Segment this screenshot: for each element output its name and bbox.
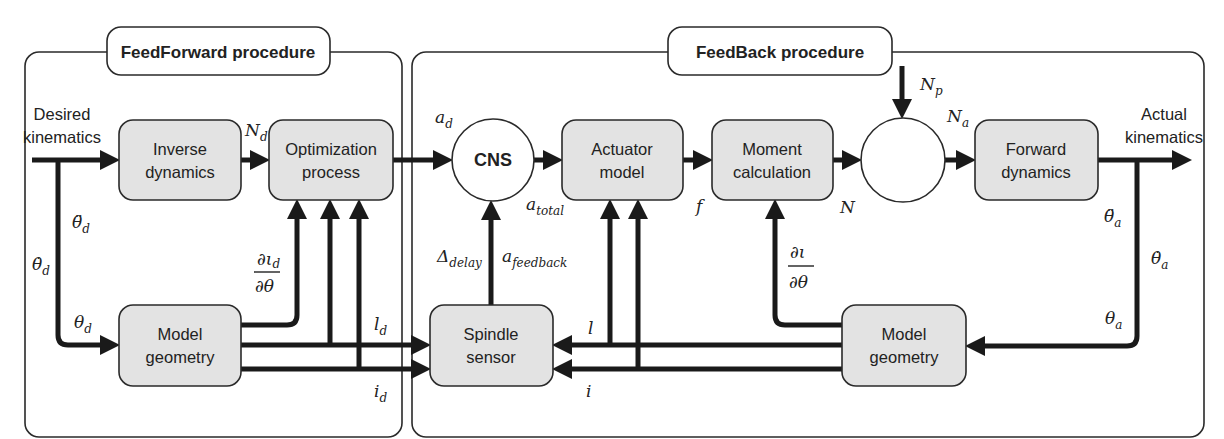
model-geometry-left-label-2: geometry — [146, 348, 216, 366]
feedforward-title: FeedForward procedure — [121, 43, 316, 62]
optimization-label-1: Optimization — [285, 140, 377, 158]
signal-a-total: atotal — [526, 194, 564, 218]
actuator-label-1: Actuator — [591, 140, 653, 158]
model-geometry-left-label-1: Model — [158, 325, 203, 343]
actual-kinematics-label-2: kinematics — [1125, 128, 1203, 146]
desired-kinematics-label-1: Desired — [34, 105, 91, 123]
control-diagram: FeedForward procedure FeedBack procedure — [0, 0, 1224, 439]
actual-kinematics-label-1: Actual — [1141, 105, 1187, 123]
moment-label-2: calculation — [733, 163, 811, 181]
block-optimization-process: Optimization process — [269, 120, 393, 200]
signal-theta-a: θa — [1105, 308, 1122, 332]
block-actuator-model: Actuator model — [562, 120, 683, 200]
signal-i-d: id — [374, 381, 387, 405]
forward-dynamics-label-1: Forward — [1006, 140, 1067, 158]
block-spindle-sensor: Spindle sensor — [430, 305, 553, 386]
block-model-geometry-desired: Model geometry — [119, 305, 241, 386]
signal-N-a: Na — [946, 106, 969, 130]
svg-text:∂ι: ∂ι — [790, 242, 805, 262]
feedback-title-pill: FeedBack procedure — [668, 27, 892, 75]
svg-text:∂θ: ∂θ — [255, 276, 274, 296]
actuator-label-2: model — [600, 163, 645, 181]
signal-dl-d-dtheta: ∂ιd ∂θ — [254, 249, 280, 296]
signal-delta-delay: Δdelay — [436, 246, 482, 270]
model-geometry-right-label-2: geometry — [870, 348, 940, 366]
block-moment-calculation: Moment calculation — [712, 120, 833, 200]
feedforward-title-pill: FeedForward procedure — [107, 27, 330, 75]
signal-theta-d: θd — [74, 312, 92, 336]
signal-N-d: Nd — [244, 120, 268, 144]
signal-dl-dtheta: ∂ι ∂θ — [788, 242, 814, 292]
block-inverse-dynamics: Inverse dynamics — [119, 120, 241, 200]
feedback-title: FeedBack procedure — [696, 43, 864, 62]
cns-label: CNS — [474, 150, 512, 170]
forward-dynamics-label-2: dynamics — [1001, 163, 1071, 181]
signal-theta-dot-a: θ̇a — [1151, 248, 1168, 272]
arrow-desired-to-geometry — [58, 160, 111, 345]
optimization-label-2: process — [302, 163, 360, 181]
signal-l: l — [588, 318, 593, 338]
summing-junction — [861, 118, 945, 202]
signal-N-p: Np — [919, 74, 943, 98]
signal-theta-ddot-d: θ̈d — [72, 212, 90, 236]
block-cns: CNS — [452, 119, 534, 201]
signal-i: i — [586, 381, 591, 401]
spindle-label-2: sensor — [466, 348, 516, 366]
spindle-label-1: Spindle — [463, 325, 518, 343]
signal-f: f — [694, 196, 705, 216]
inverse-dynamics-label-1: Inverse — [153, 140, 207, 158]
signal-l-d: ld — [374, 314, 387, 338]
block-forward-dynamics: Forward dynamics — [975, 120, 1098, 200]
signal-theta-dot-d: θ̇d — [32, 254, 50, 278]
model-geometry-right-label-1: Model — [882, 325, 927, 343]
signal-theta-ddot-a: θ̈a — [1104, 206, 1121, 230]
block-model-geometry-actual: Model geometry — [842, 305, 966, 386]
desired-kinematics-label-2: kinematics — [23, 128, 101, 146]
svg-text:∂θ: ∂θ — [789, 272, 808, 292]
inverse-dynamics-label-2: dynamics — [145, 163, 215, 181]
moment-label-1: Moment — [742, 140, 802, 158]
signal-N: N — [839, 197, 856, 217]
signal-a-feedback: afeedback — [502, 246, 567, 270]
svg-text:∂ιd: ∂ιd — [257, 249, 280, 271]
signal-a-d: ad — [435, 107, 453, 131]
